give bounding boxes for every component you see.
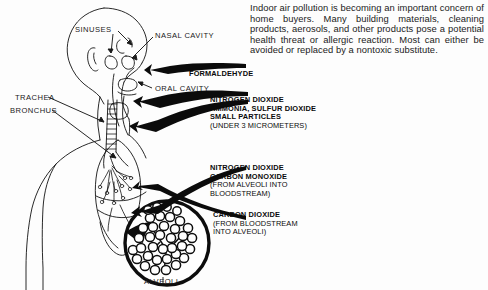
bronchus-main-right (116, 152, 128, 166)
neck-front (129, 119, 130, 135)
label-sinuses: SINUSES (75, 25, 112, 34)
callout-formaldehyde-line-1: FORMALDEHYDE (189, 70, 253, 79)
label-alveoli: ALVEOLI (144, 277, 178, 286)
illustration-page: Indoor air pollution is becoming an impo… (0, 0, 488, 290)
callout-inhaled-group-note-1: (UNDER 3 MICROMETERS) (210, 122, 316, 131)
label-bronchus: BRONCHUS (10, 106, 57, 115)
arm-outline (42, 164, 56, 290)
head-outline-back (67, 8, 104, 104)
sinus-cavity-upper (105, 56, 117, 69)
callout-formaldehyde: FORMALDEHYDE (189, 70, 253, 79)
bronchiole-branches (100, 166, 131, 202)
intro-paragraph: Indoor air pollution is becoming an impo… (250, 3, 484, 56)
ear-inner (94, 53, 96, 64)
sinus-cavity-frontal (117, 40, 124, 53)
lower-lobe (100, 222, 127, 255)
callout-blood-to-alveoli: CARBON DIOXIDE (FROM BLOODSTREAM INTO AL… (213, 211, 298, 237)
larynx (110, 103, 129, 120)
label-nasal-cavity: NASAL CAVITY (155, 31, 214, 40)
tongue-line (118, 92, 136, 95)
callout-inhaled-group: NITROGEN DIOXIDE AMMONIA, SULFUR DIOXIDE… (210, 96, 316, 130)
bronchus-main-left (104, 150, 106, 168)
trachea-left-wall (106, 100, 108, 150)
label-oral-cavity: ORAL CAVITY (155, 84, 209, 93)
neck-back (98, 97, 100, 140)
label-trachea: TRACHEA (15, 93, 54, 102)
callout-alveoli-to-blood: NITROGEN DIOXIDE CARBON MONOXIDE (FROM A… (210, 164, 288, 198)
alveoli-magnifier-leader-2 (108, 208, 112, 231)
oral-cavity-shape (118, 79, 137, 92)
callout-alveoli-to-blood-note-2: BLOODSTREAM) (210, 190, 288, 199)
shoulder-left (26, 140, 100, 290)
shoulder-right (129, 135, 146, 158)
ear-outline (88, 48, 98, 71)
head-outline-top (104, 8, 147, 63)
callout-blood-to-alveoli-note-2: INTO ALVEOLI) (213, 228, 298, 237)
